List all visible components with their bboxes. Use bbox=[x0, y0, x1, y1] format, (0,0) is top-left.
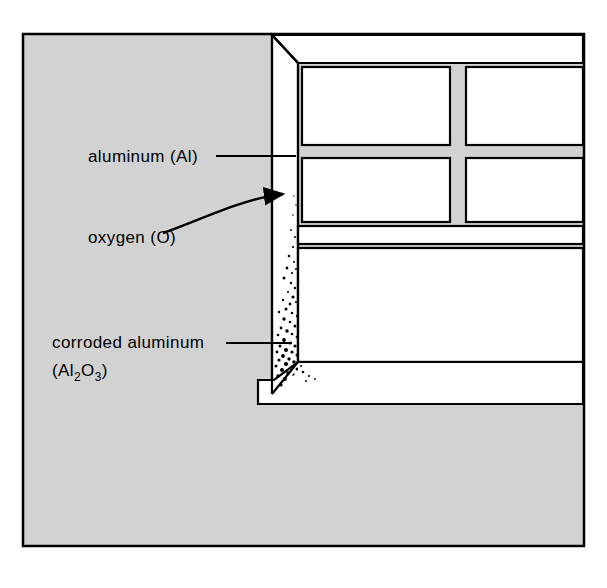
window-frame-structure bbox=[258, 35, 583, 404]
corroded-formula-mid: O bbox=[81, 361, 95, 380]
label-aluminum: aluminum (Al) bbox=[88, 147, 198, 166]
corroded-formula-open: (Al bbox=[52, 361, 74, 380]
frame-pane-mid-left bbox=[302, 158, 450, 222]
frame-pane-large-lower bbox=[298, 248, 583, 362]
label-oxygen: oxygen (O) bbox=[88, 228, 176, 247]
corroded-formula-sub1: 2 bbox=[74, 370, 81, 384]
label-corroded-line1: corroded aluminum bbox=[52, 333, 204, 352]
frame-pane-upper-left bbox=[302, 67, 450, 145]
frame-pane-upper-right bbox=[466, 67, 583, 145]
frame-mullion-rail bbox=[298, 226, 583, 244]
figure-container: aluminum (Al) oxygen (O) corroded alumin… bbox=[0, 0, 607, 588]
diagram-svg: aluminum (Al) oxygen (O) corroded alumin… bbox=[0, 0, 607, 588]
frame-bottom-ledge bbox=[258, 362, 583, 404]
corroded-formula-close: ) bbox=[102, 361, 108, 380]
frame-top-rail bbox=[272, 35, 583, 63]
corroded-formula-sub2: 3 bbox=[95, 370, 102, 384]
frame-pane-mid-right bbox=[466, 158, 583, 222]
